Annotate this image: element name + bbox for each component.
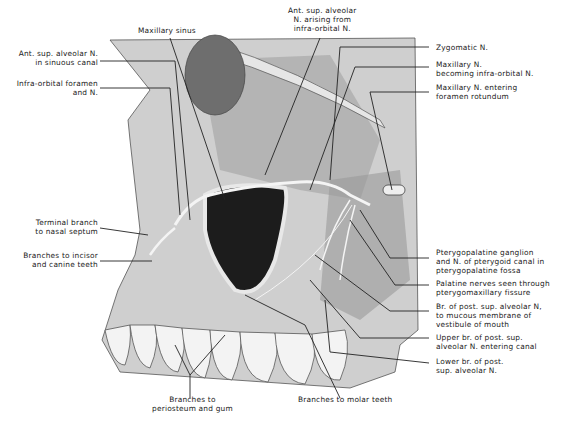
label-zygomatic: Zygomatic N.: [436, 43, 488, 52]
foramen-rotundum-nerve: [383, 185, 405, 195]
orbit: [185, 35, 245, 115]
label-lower-br: Lower br. of post. sup. alveolar N.: [436, 357, 504, 375]
label-pterygopalatine-ganglion: Pterygopalatine ganglion and N. of ptery…: [436, 248, 544, 275]
label-ant-sup-alveolar-arising: Ant. sup. alveolar N. arising from infra…: [288, 6, 357, 33]
label-periosteum-gum: Branches to periosteum and gum: [152, 395, 233, 413]
label-maxillary-becoming: Maxillary N. becoming infra-orbital N.: [436, 60, 534, 78]
label-maxillary-sinus: Maxillary sinus: [138, 26, 196, 35]
label-terminal-branch: Terminal branch to nasal septum: [35, 218, 98, 236]
label-infraorbital-foramen: Infra-orbital foramen and N.: [17, 79, 98, 97]
label-br-mucous: Br. of post. sup. alveolar N, to mucous …: [436, 302, 542, 329]
label-palatine-nerves: Palatine nerves seen through pterygomaxi…: [436, 279, 550, 297]
label-maxillary-entering: Maxillary N. entering foramen rotundum: [436, 83, 517, 101]
label-upper-br: Upper br. of post. sup. alveolar N. ente…: [436, 333, 537, 351]
label-molar-teeth: Branches to molar teeth: [298, 395, 392, 404]
label-ant-sup-alveolar-canal: Ant. sup. alveolar N. in sinuous canal: [19, 49, 98, 67]
label-incisor-canine: Branches to incisor and canine teeth: [23, 251, 98, 269]
